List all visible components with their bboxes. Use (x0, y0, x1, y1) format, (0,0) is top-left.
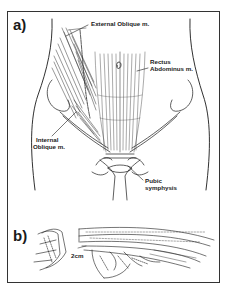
pubic-symphysis-label-line2: symphysis (145, 185, 177, 191)
scale-label: 2cm (71, 253, 83, 259)
external-oblique-label: External Oblique m. (91, 21, 149, 27)
cross-section-illustration (34, 227, 214, 278)
panel-b-label: b) (13, 228, 27, 243)
rectus-abdominus-label-line2: Abdominus m. (150, 66, 193, 72)
umbilicus (117, 62, 121, 69)
external-oblique-muscle (52, 28, 96, 118)
panel-a-label: a) (13, 17, 26, 32)
leader-lines (52, 25, 148, 180)
internal-oblique-muscle (72, 100, 102, 144)
internal-oblique-label-line2: Oblique m. (33, 144, 65, 150)
rectus-abdominus-muscle (95, 52, 145, 152)
